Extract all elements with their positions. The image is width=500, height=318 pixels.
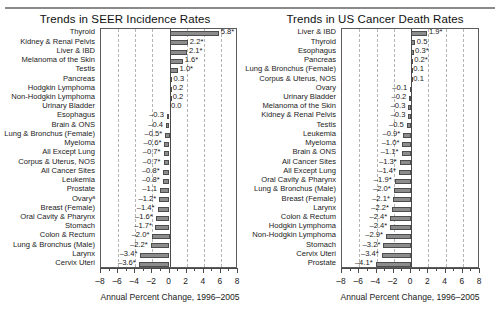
- axis-tick-minor: [367, 268, 368, 271]
- axis-tick-minor: [194, 268, 195, 271]
- bar: [394, 188, 411, 193]
- value-label: –0.3: [0, 111, 405, 119]
- category-label: Liver & IBD: [0, 28, 339, 36]
- category-label: Pancreas: [0, 56, 339, 64]
- axis-tick-minor: [419, 268, 420, 271]
- axis-tick-major: [100, 268, 101, 273]
- axis-tick-minor: [109, 268, 110, 271]
- bar: [382, 253, 411, 258]
- axis-tick-label: 8: [469, 276, 489, 286]
- bar: [392, 207, 411, 212]
- value-label: –1.3*: [0, 158, 397, 166]
- bar: [402, 151, 411, 156]
- axis-tick-major: [341, 268, 342, 273]
- value-label: –2.2*: [0, 204, 389, 212]
- x-axis-label-right: Annual Percent Change, 1996–2005: [315, 292, 500, 302]
- axis-tick-major: [410, 268, 411, 273]
- gridline: [428, 29, 429, 267]
- x-axis-right: [341, 268, 479, 269]
- axis-tick-major: [169, 268, 170, 273]
- category-label: Corpus & Uterus, NOS: [0, 75, 339, 83]
- gridline: [446, 29, 447, 267]
- bar: [402, 142, 411, 147]
- bar: [411, 40, 415, 45]
- zero-line: [411, 29, 412, 267]
- axis-tick-minor: [211, 268, 212, 271]
- value-label: 1.9*: [429, 28, 443, 36]
- value-label: –2.4*: [0, 213, 387, 221]
- axis-tick-major: [445, 268, 446, 273]
- value-label: –2.1*: [0, 195, 390, 203]
- value-label: –0.5: [0, 121, 404, 129]
- value-label: –1.9*: [0, 176, 392, 184]
- bar: [408, 114, 411, 119]
- axis-tick-minor: [126, 268, 127, 271]
- value-label: –4.1*: [0, 259, 373, 267]
- bar: [400, 160, 411, 165]
- value-label: 0.3*: [415, 47, 429, 55]
- axis-tick-major: [220, 268, 221, 273]
- axis-tick-major: [427, 268, 428, 273]
- axis-tick-major: [479, 268, 480, 273]
- bar: [390, 225, 411, 230]
- bar: [411, 50, 414, 55]
- axis-tick-minor: [143, 268, 144, 271]
- bar: [390, 216, 411, 221]
- axis-tick-minor: [350, 268, 351, 271]
- value-label: –0.9*: [0, 130, 400, 138]
- category-label: Lung & Bronchus (Female): [0, 65, 339, 73]
- chart-title-right: Trends in US Cancer Death Rates: [250, 13, 500, 25]
- axis-tick-major: [117, 268, 118, 273]
- axis-tick-minor: [384, 268, 385, 271]
- value-label: –2.4*: [0, 222, 387, 230]
- bar: [411, 59, 413, 64]
- value-label: 0.5: [417, 38, 428, 46]
- x-axis-label-left: Annual Percent Change, 1996–2005: [75, 292, 265, 302]
- axis-tick-major: [134, 268, 135, 273]
- value-label: –2.0*: [0, 185, 391, 193]
- value-label: –0.3: [0, 102, 405, 110]
- axis-tick-minor: [160, 268, 161, 271]
- bar: [403, 133, 411, 138]
- bar: [409, 96, 411, 101]
- category-label: Esophagus: [0, 47, 339, 55]
- bar: [395, 179, 411, 184]
- figure-container: Trends in SEER Incidence Rates Annual Pe…: [0, 0, 500, 318]
- bar: [408, 105, 411, 110]
- axis-tick-minor: [228, 268, 229, 271]
- gridline: [463, 29, 464, 267]
- axis-tick-major: [462, 268, 463, 273]
- value-label: –0.1: [0, 84, 407, 92]
- bar: [407, 123, 411, 128]
- axis-tick-major: [358, 268, 359, 273]
- value-label: 0.1: [413, 65, 424, 73]
- bar: [410, 87, 412, 92]
- bar: [386, 234, 411, 239]
- chart-title-left: Trends in SEER Incidence Rates: [0, 13, 250, 25]
- axis-tick-minor: [470, 268, 471, 271]
- axis-tick-major: [151, 268, 152, 273]
- bar: [376, 262, 411, 267]
- axis-tick-minor: [453, 268, 454, 271]
- value-label: –1.0*: [0, 139, 399, 147]
- value-label: –3.4*: [0, 250, 379, 258]
- axis-tick-major: [376, 268, 377, 273]
- axis-tick-major: [203, 268, 204, 273]
- category-label: Thyroid: [0, 38, 339, 46]
- value-label: –1.4*: [0, 167, 396, 175]
- bar: [399, 170, 411, 175]
- bar: [411, 31, 427, 36]
- value-label: –0.2: [0, 93, 406, 101]
- value-label: –2.9*: [0, 231, 383, 239]
- bar: [393, 197, 411, 202]
- value-label: –3.2*: [0, 241, 380, 249]
- value-label: 0.1: [413, 75, 424, 83]
- value-label: 0.2*: [414, 56, 428, 64]
- axis-tick-label: 8: [227, 276, 247, 286]
- x-axis-left: [100, 268, 237, 269]
- bar: [383, 243, 411, 248]
- axis-tick-minor: [436, 268, 437, 271]
- axis-tick-major: [393, 268, 394, 273]
- axis-tick-major: [237, 268, 238, 273]
- axis-tick-minor: [177, 268, 178, 271]
